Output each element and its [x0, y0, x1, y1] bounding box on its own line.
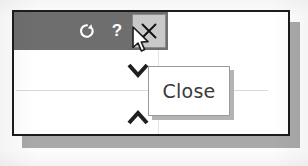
help-icon: ?: [112, 22, 122, 39]
close-icon: [139, 21, 159, 41]
tooltip-label: Close: [163, 82, 216, 101]
tooltip: Close: [148, 66, 230, 116]
close-button[interactable]: [132, 14, 166, 48]
title-bar: ?: [14, 12, 168, 50]
refresh-button[interactable]: [72, 14, 102, 48]
refresh-icon: [78, 22, 96, 40]
help-button[interactable]: ?: [102, 13, 132, 49]
